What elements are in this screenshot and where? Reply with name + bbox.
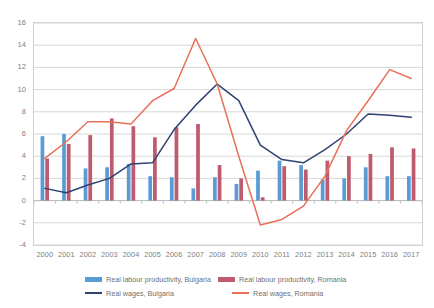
bar [84,168,88,200]
legend-item[interactable]: Real labour productivity, Romania [218,274,346,284]
bar [390,147,394,200]
bar-series [45,118,415,200]
x-axis-tick-label: 2006 [162,251,186,259]
y-axis-tick-label: -4 [4,241,26,249]
bar [364,167,368,200]
bar [213,177,217,200]
bar [342,178,346,200]
bar [45,158,49,200]
bar [105,167,109,200]
bar [347,156,351,200]
bar [148,176,152,200]
bar [191,188,195,200]
x-axis-tick-label: 2007 [184,251,208,259]
x-axis-tick-label: 2010 [248,251,272,259]
bar [261,197,265,200]
y-axis-tick-label: 8 [4,108,26,116]
x-axis-tick-label: 2011 [270,251,294,259]
bar [407,176,411,200]
x-axis-tick-label: 2016 [378,251,402,259]
y-axis-tick-label: 16 [4,19,26,27]
legend-item[interactable]: Real wages, Bulgaria [85,288,174,298]
bar [235,184,239,201]
legend-line-swatch-icon [85,292,102,294]
x-axis-tick-label: 2017 [399,251,423,259]
legend-item[interactable]: Real labour productivity, Bulgaria [85,274,211,284]
legend-item[interactable]: Real wages, Romania [232,288,323,298]
bar [127,164,131,201]
bar [299,165,303,201]
x-axis-tick-label: 2003 [97,251,121,259]
bar [321,180,325,201]
bar [256,171,260,201]
x-axis-tick-label: 2015 [356,251,380,259]
y-axis-tick-label: 0 [4,197,26,205]
x-axis-tick-label: 2012 [291,251,315,259]
x-axis-tick-label: 2013 [313,251,337,259]
bar [110,118,114,200]
chart-legend: Real labour productivity, BulgariaReal l… [0,270,434,306]
y-axis-tick-label: 4 [4,152,26,160]
legend-label: Real wages, Romania [253,289,323,298]
y-axis-tick-label: 10 [4,86,26,94]
legend-label: Real wages, Bulgaria [106,289,174,298]
y-axis-tick-label: 12 [4,63,26,71]
line-series [45,84,411,193]
y-axis-tick-label: -2 [4,219,26,227]
bar [412,148,416,200]
x-axis-tick-label: 2009 [227,251,251,259]
legend-bar-swatch-icon [218,277,235,282]
x-axis-tick-label: 2002 [76,251,100,259]
y-axis-tick-label: 14 [4,41,26,49]
bar [175,127,179,200]
x-axis-tick-label: 2000 [33,251,57,259]
bar [170,177,174,200]
bar [325,161,329,201]
y-axis-tick-label: 6 [4,130,26,138]
bar [218,165,222,201]
x-axis-tick-label: 2005 [141,251,165,259]
chart-canvas [0,0,434,308]
line-series [45,39,411,225]
bar [153,137,157,200]
bar [304,170,308,201]
bar [369,154,373,201]
x-axis-tick-label: 2004 [119,251,143,259]
bar [239,178,243,200]
legend-line-swatch-icon [232,292,249,294]
bar [282,166,286,200]
legend-bar-swatch-icon [85,277,102,282]
bar [385,176,389,200]
x-axis-tick-label: 2014 [335,251,359,259]
bar [88,135,92,200]
legend-label: Real labour productivity, Bulgaria [106,275,211,284]
x-axis-tick-label: 2008 [205,251,229,259]
legend-label: Real labour productivity, Romania [239,275,346,284]
bar [278,161,282,201]
y-axis-tick-label: 2 [4,174,26,182]
bar [41,136,45,200]
bar-series [41,134,411,201]
x-axis-tick-label: 2001 [54,251,78,259]
bar [196,124,200,201]
chart-container: 1614121086420-2-4 2000200120022003200420… [0,0,434,308]
